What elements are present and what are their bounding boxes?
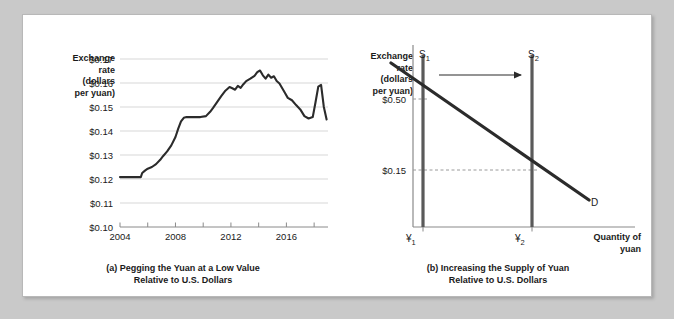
panel-b-x-tick-label-q1: ¥1 bbox=[406, 233, 416, 247]
panel-b-x-axis-title: Quantity of yuan bbox=[555, 232, 641, 255]
panel-a-x-tick-marks bbox=[120, 223, 314, 228]
panel-b-label-demand-text: D bbox=[591, 197, 598, 208]
svg-text:$0.14: $0.14 bbox=[89, 126, 113, 137]
panel-a-line-chart: Exchange rate (dollars per yuan) $0.10$0… bbox=[23, 15, 343, 298]
panel-a-gridlines bbox=[120, 59, 328, 203]
panel-a-y-tick-labels: $0.10$0.11$0.12$0.13$0.14$0.15$0.16$0.17 bbox=[89, 54, 113, 233]
svg-text:$0.11: $0.11 bbox=[90, 198, 113, 209]
svg-text:2004: 2004 bbox=[109, 231, 130, 242]
svg-text:$0.12: $0.12 bbox=[89, 174, 113, 185]
panel-b-x-axis-title-line2: yuan bbox=[555, 244, 641, 256]
panel-a-data-line bbox=[120, 71, 327, 178]
svg-text:2008: 2008 bbox=[165, 231, 186, 242]
panel-b-label-demand: D bbox=[591, 197, 598, 208]
panel-b-demand-curve bbox=[391, 63, 589, 200]
figure-card: Exchange rate (dollars per yuan) $0.10$0… bbox=[22, 14, 652, 297]
svg-text:2012: 2012 bbox=[220, 231, 241, 242]
svg-text:$0.15: $0.15 bbox=[89, 102, 113, 113]
panel-b-label-s2: S2 bbox=[528, 49, 539, 63]
panel-a-caption-line1: (a) Pegging the Yuan at a Low Value bbox=[23, 262, 343, 274]
panel-b-dashed-guides bbox=[413, 99, 538, 170]
svg-text:$0.50: $0.50 bbox=[382, 94, 406, 105]
panel-b-caption-line2: Relative to U.S. Dollars bbox=[343, 274, 653, 286]
panel-b-plot: $0.50$0.15 bbox=[343, 15, 653, 298]
panel-b-supply-demand-diagram: Exchange rate (dollars per yuan) $0.50$0… bbox=[343, 15, 653, 298]
panel-a-caption: (a) Pegging the Yuan at a Low Value Rela… bbox=[23, 262, 343, 286]
panel-b-x-axis-title-line1: Quantity of bbox=[555, 232, 641, 244]
panel-b-caption-line1: (b) Increasing the Supply of Yuan bbox=[343, 262, 653, 274]
panel-b-label-s1-text: S bbox=[419, 49, 426, 60]
svg-text:2016: 2016 bbox=[276, 231, 297, 242]
panel-b-label-s1-sub: 1 bbox=[426, 54, 430, 63]
panel-b-label-s2-text: S bbox=[528, 49, 535, 60]
panel-a-caption-line2: Relative to U.S. Dollars bbox=[23, 274, 343, 286]
panel-b-label-s2-sub: 2 bbox=[535, 54, 539, 63]
panel-a-plot: $0.10$0.11$0.12$0.13$0.14$0.15$0.16$0.17… bbox=[23, 15, 343, 298]
panel-b-label-s1: S1 bbox=[419, 49, 430, 63]
svg-text:$0.13: $0.13 bbox=[89, 150, 113, 161]
svg-text:$0.17: $0.17 bbox=[89, 54, 113, 65]
svg-text:$0.15: $0.15 bbox=[382, 165, 406, 176]
panel-b-caption: (b) Increasing the Supply of Yuan Relati… bbox=[343, 262, 653, 286]
panel-a-x-tick-labels: 2004200820122016 bbox=[109, 231, 297, 242]
panel-b-y-tick-labels: $0.50$0.15 bbox=[382, 94, 406, 176]
panel-b-x-tick-label-q2: ¥2 bbox=[515, 233, 525, 247]
panel-b-x-tick-marks bbox=[423, 227, 532, 232]
svg-text:$0.16: $0.16 bbox=[89, 78, 113, 89]
